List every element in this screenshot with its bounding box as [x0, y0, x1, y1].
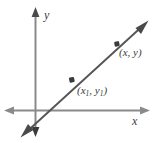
y-axis [32, 7, 40, 137]
graphed-line-lower-left-arrowhead [21, 124, 34, 138]
point-markers [69, 41, 120, 83]
point-1-y-var: y [95, 84, 100, 96]
point-2-paren-close: ) [138, 46, 142, 58]
x-axis-left-arrowhead [4, 107, 14, 115]
graphed-line-upper-right-arrowhead [136, 21, 149, 35]
point-1-y-subscript: 1 [100, 89, 104, 98]
graphed-line-segment [27, 27, 142, 132]
y-axis-down-arrowhead [32, 127, 40, 137]
y-axis-label: y [44, 9, 49, 21]
point-label-x-y: (x, y) [119, 47, 142, 58]
point-1-paren-close: ) [103, 84, 107, 96]
point-marker-1 [69, 77, 75, 83]
point-1-x-subscript: 1 [86, 89, 90, 98]
x-axis-label: x [132, 115, 137, 127]
point-label-x1-y1: (x1, y1) [77, 85, 107, 96]
graphed-line [21, 21, 149, 138]
point-1-x-var: x [81, 84, 86, 96]
y-axis-up-arrowhead [32, 7, 40, 17]
x-axis [4, 107, 150, 115]
figure-canvas: y x (x1, y1) (x, y) [0, 0, 156, 143]
x-axis-right-arrowhead [140, 107, 150, 115]
